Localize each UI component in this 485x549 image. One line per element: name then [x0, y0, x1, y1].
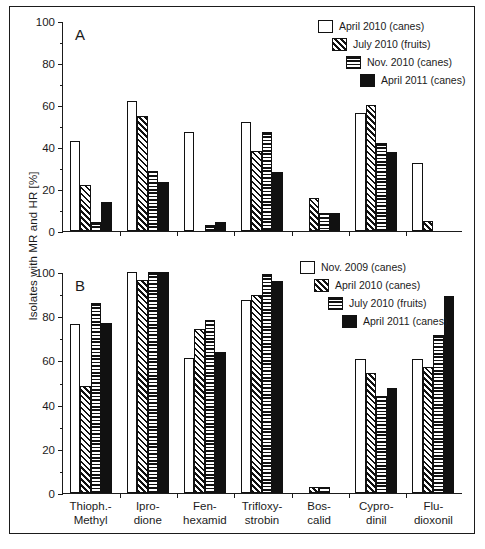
bar — [70, 324, 81, 493]
bar — [148, 272, 159, 493]
bar — [205, 320, 216, 493]
bar — [433, 335, 444, 493]
x-category-label: Flu-dioxonil — [405, 500, 462, 527]
x-category-line: calid — [291, 514, 348, 528]
bar — [387, 388, 398, 493]
y-tick-label-0: 0 — [49, 488, 55, 500]
legend-label: April 2011 (canes) — [363, 315, 447, 327]
x-category-label: Thioph.-Methyl — [62, 500, 119, 527]
x-category-line: Fen- — [176, 500, 233, 514]
bar — [355, 359, 366, 493]
x-category-label: Fen-hexamid — [176, 500, 233, 527]
bar — [127, 272, 138, 493]
legend-item[interactable]: July 2010 (fruits) — [300, 294, 447, 312]
x-category-label: Bos-calid — [291, 500, 348, 527]
y-tick-label-20: 20 — [42, 444, 55, 456]
legend-label: April 2010 (canes) — [335, 279, 420, 291]
bar — [412, 359, 423, 493]
bar-group — [177, 273, 234, 493]
legend-panel-b: Nov. 2009 (canes)April 2010 (canes)July … — [300, 258, 447, 330]
x-group-tick-5 — [349, 493, 350, 498]
x-category-line: Cypro- — [348, 500, 405, 514]
bar — [80, 386, 91, 493]
y-tick-0 — [58, 494, 63, 495]
bar-group — [234, 273, 291, 493]
bar — [215, 352, 226, 493]
bar-group — [63, 273, 120, 493]
x-category-line: Bos- — [291, 500, 348, 514]
panel-label-b: B — [75, 277, 85, 294]
bar — [251, 295, 262, 493]
legend-label: July 2010 (fruits) — [349, 297, 427, 309]
bar — [272, 281, 283, 493]
bar — [184, 358, 195, 493]
figure-root: Isolates with MR and HR [%] 020406080100… — [0, 0, 485, 549]
y-tick-label-100: 100 — [36, 267, 55, 279]
bar — [262, 274, 273, 493]
bar-group — [120, 273, 177, 493]
x-category-line: dinil — [348, 514, 405, 528]
bar — [194, 329, 205, 493]
bar — [376, 396, 387, 493]
bar — [366, 373, 377, 493]
x-group-tick-4 — [292, 493, 293, 498]
x-category-line: dioxonil — [405, 514, 462, 528]
x-category-line: Ipro- — [119, 500, 176, 514]
x-group-tick-3 — [234, 493, 235, 498]
bar — [309, 487, 320, 493]
y-tick-label-80: 80 — [42, 311, 55, 323]
x-category-line: dione — [119, 514, 176, 528]
x-group-tick-6 — [406, 493, 407, 498]
legend-swatch-icon — [342, 315, 357, 328]
x-category-line: Trifloxy- — [233, 500, 290, 514]
x-category-line: Flu- — [405, 500, 462, 514]
x-category-label: Ipro-dione — [119, 500, 176, 527]
panel-b: 020406080100 B Nov. 2009 (canes)April 20… — [0, 0, 485, 549]
bar — [158, 272, 169, 493]
x-category-line: Methyl — [62, 514, 119, 528]
x-category-line: strobin — [233, 514, 290, 528]
bar — [319, 487, 330, 493]
x-group-tick-1 — [120, 493, 121, 498]
legend-swatch-icon — [328, 297, 343, 310]
y-tick-label-40: 40 — [42, 400, 55, 412]
legend-swatch-icon — [300, 261, 315, 274]
legend-item[interactable]: April 2010 (canes) — [300, 276, 447, 294]
legend-label: Nov. 2009 (canes) — [321, 261, 406, 273]
x-category-label: Trifloxy-strobin — [233, 500, 290, 527]
x-category-label: Cypro-dinil — [348, 500, 405, 527]
x-category-line: hexamid — [176, 514, 233, 528]
bar — [423, 367, 434, 493]
legend-item[interactable]: April 2011 (canes) — [300, 312, 447, 330]
y-tick-label-60: 60 — [42, 355, 55, 367]
bar — [137, 280, 148, 493]
x-category-line: Thioph.- — [62, 500, 119, 514]
bar — [91, 303, 102, 493]
bar — [101, 323, 112, 493]
legend-item[interactable]: Nov. 2009 (canes) — [300, 258, 447, 276]
x-group-tick-2 — [177, 493, 178, 498]
legend-swatch-icon — [314, 279, 329, 292]
bar — [241, 300, 252, 493]
